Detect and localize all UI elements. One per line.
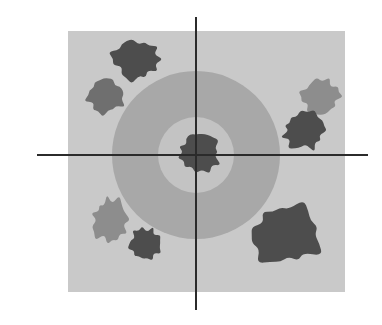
figure-root <box>0 0 382 325</box>
cluster-diagram-svg <box>0 0 382 325</box>
